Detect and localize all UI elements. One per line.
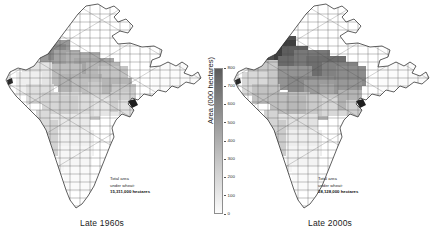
tick-mark: [224, 159, 226, 160]
district-fills-1960s: [2, 0, 202, 212]
note-line-3: 15,311,000 hectares: [110, 189, 150, 196]
total-area-note-1960s: Total area under wheat: 15,311,000 hecta…: [110, 176, 150, 196]
total-area-note-2000s: Total area under wheat: 28,128,000 hecta…: [318, 176, 358, 196]
india-district-map-1960s: [2, 0, 202, 212]
note-line-2: under wheat:: [110, 183, 150, 190]
map-panel-late-1960s: Total area under wheat: 15,311,000 hecta…: [2, 0, 202, 216]
tick-mark: [224, 86, 226, 87]
tick-mark: [224, 214, 226, 215]
tick-mark: [224, 104, 226, 105]
panel-caption-1960s: Late 1960s: [2, 218, 202, 228]
tick-mark: [224, 141, 226, 142]
note-line-1: Total area: [110, 176, 150, 183]
tick-mark: [224, 68, 226, 69]
colorbar-gradient: [214, 68, 223, 214]
panel-caption-2000s: Late 2000s: [230, 218, 430, 228]
note-line-2: under wheat:: [318, 183, 358, 190]
tick-mark: [224, 195, 226, 196]
map-panel-late-2000s: Total area under wheat: 28,128,000 hecta…: [230, 0, 430, 216]
tick-mark: [224, 122, 226, 123]
note-line-3: 28,128,000 hectares: [318, 189, 358, 196]
tick-mark: [224, 177, 226, 178]
note-line-1: Total area: [318, 176, 358, 183]
